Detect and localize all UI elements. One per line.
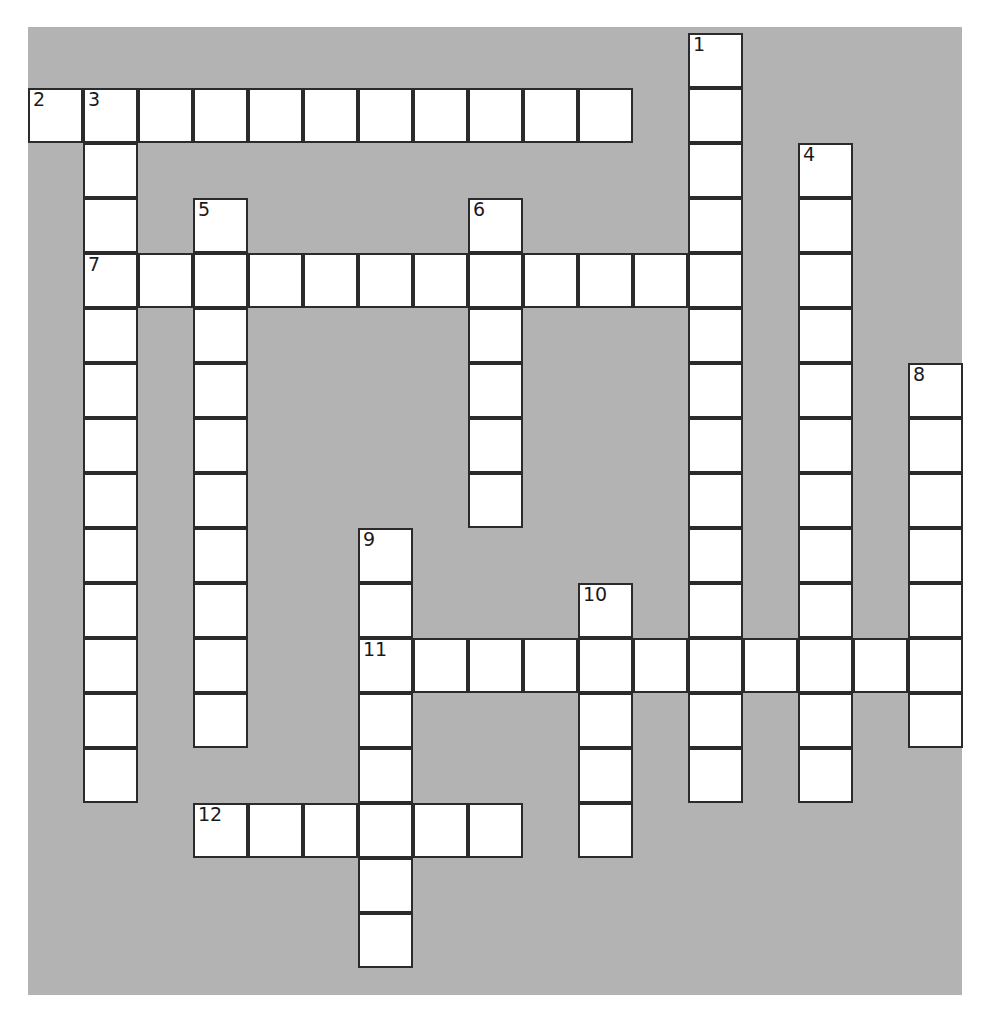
crossword-cell[interactable]: [743, 638, 798, 693]
crossword-cell[interactable]: [468, 418, 523, 473]
crossword-cell[interactable]: [83, 143, 138, 198]
crossword-cell[interactable]: [358, 803, 413, 858]
crossword-cell[interactable]: [523, 88, 578, 143]
crossword-cell[interactable]: [358, 88, 413, 143]
crossword-cell[interactable]: [908, 583, 963, 638]
crossword-cell[interactable]: [193, 253, 248, 308]
crossword-cell[interactable]: [798, 748, 853, 803]
crossword-cell[interactable]: [688, 198, 743, 253]
crossword-cell[interactable]: [798, 693, 853, 748]
crossword-cell[interactable]: [413, 803, 468, 858]
crossword-cell[interactable]: [468, 308, 523, 363]
crossword-cell[interactable]: [248, 88, 303, 143]
crossword-cell[interactable]: [193, 473, 248, 528]
crossword-cell[interactable]: [688, 693, 743, 748]
crossword-cell[interactable]: [83, 583, 138, 638]
crossword-cell[interactable]: [468, 473, 523, 528]
crossword-cell[interactable]: [468, 88, 523, 143]
crossword-grid[interactable]: 123456789101112: [0, 0, 985, 1022]
crossword-cell[interactable]: [83, 638, 138, 693]
crossword-cell[interactable]: [688, 363, 743, 418]
crossword-cell[interactable]: [798, 418, 853, 473]
crossword-cell[interactable]: [578, 803, 633, 858]
crossword-cell[interactable]: [83, 528, 138, 583]
crossword-cell-start-5[interactable]: 5: [193, 198, 248, 253]
crossword-cell[interactable]: [578, 638, 633, 693]
crossword-cell[interactable]: [798, 308, 853, 363]
crossword-cell[interactable]: [688, 528, 743, 583]
crossword-cell[interactable]: [908, 693, 963, 748]
crossword-cell[interactable]: [688, 473, 743, 528]
crossword-cell[interactable]: [688, 748, 743, 803]
crossword-cell[interactable]: [578, 253, 633, 308]
crossword-cell-start-2[interactable]: 2: [28, 88, 83, 143]
crossword-cell-start-4[interactable]: 4: [798, 143, 853, 198]
crossword-cell[interactable]: [83, 198, 138, 253]
crossword-cell[interactable]: [578, 748, 633, 803]
crossword-cell-start-8[interactable]: 8: [908, 363, 963, 418]
crossword-cell[interactable]: [413, 88, 468, 143]
crossword-cell-start-3[interactable]: 3: [83, 88, 138, 143]
crossword-cell[interactable]: [193, 583, 248, 638]
crossword-cell[interactable]: [413, 253, 468, 308]
crossword-cell[interactable]: [358, 253, 413, 308]
crossword-cell[interactable]: [798, 583, 853, 638]
crossword-cell-start-10[interactable]: 10: [578, 583, 633, 638]
crossword-cell[interactable]: [358, 858, 413, 913]
crossword-cell[interactable]: [688, 143, 743, 198]
crossword-cell[interactable]: [303, 253, 358, 308]
crossword-cell-start-11[interactable]: 11: [358, 638, 413, 693]
crossword-cell[interactable]: [688, 583, 743, 638]
crossword-cell[interactable]: [358, 913, 413, 968]
crossword-cell-start-12[interactable]: 12: [193, 803, 248, 858]
crossword-cell[interactable]: [303, 88, 358, 143]
crossword-cell[interactable]: [193, 418, 248, 473]
crossword-cell[interactable]: [908, 638, 963, 693]
crossword-cell[interactable]: [688, 88, 743, 143]
crossword-cell[interactable]: [358, 748, 413, 803]
crossword-cell[interactable]: [853, 638, 908, 693]
crossword-cell[interactable]: [688, 638, 743, 693]
crossword-cell[interactable]: [578, 88, 633, 143]
crossword-cell[interactable]: [578, 693, 633, 748]
crossword-cell[interactable]: [358, 693, 413, 748]
crossword-cell[interactable]: [908, 528, 963, 583]
crossword-cell[interactable]: [908, 473, 963, 528]
crossword-cell[interactable]: [798, 528, 853, 583]
crossword-cell[interactable]: [193, 693, 248, 748]
crossword-cell[interactable]: [468, 363, 523, 418]
crossword-cell[interactable]: [248, 253, 303, 308]
crossword-cell[interactable]: [523, 638, 578, 693]
crossword-cell-start-6[interactable]: 6: [468, 198, 523, 253]
crossword-cell[interactable]: [798, 363, 853, 418]
crossword-cell[interactable]: [83, 693, 138, 748]
crossword-cell[interactable]: [193, 308, 248, 363]
crossword-cell-start-1[interactable]: 1: [688, 33, 743, 88]
crossword-cell-start-9[interactable]: 9: [358, 528, 413, 583]
crossword-cell[interactable]: [798, 198, 853, 253]
crossword-cell[interactable]: [633, 253, 688, 308]
crossword-cell[interactable]: [138, 88, 193, 143]
crossword-cell[interactable]: [908, 418, 963, 473]
crossword-cell-start-7[interactable]: 7: [83, 253, 138, 308]
crossword-cell[interactable]: [248, 803, 303, 858]
crossword-cell[interactable]: [633, 638, 688, 693]
crossword-cell[interactable]: [83, 748, 138, 803]
crossword-cell[interactable]: [468, 253, 523, 308]
crossword-cell[interactable]: [798, 473, 853, 528]
crossword-cell[interactable]: [468, 638, 523, 693]
crossword-cell[interactable]: [413, 638, 468, 693]
crossword-cell[interactable]: [193, 638, 248, 693]
crossword-cell[interactable]: [688, 308, 743, 363]
crossword-cell[interactable]: [193, 363, 248, 418]
crossword-cell[interactable]: [83, 308, 138, 363]
crossword-cell[interactable]: [193, 88, 248, 143]
crossword-cell[interactable]: [798, 253, 853, 308]
crossword-cell[interactable]: [358, 583, 413, 638]
crossword-cell[interactable]: [303, 803, 358, 858]
crossword-cell[interactable]: [83, 473, 138, 528]
crossword-cell[interactable]: [83, 418, 138, 473]
crossword-cell[interactable]: [688, 418, 743, 473]
crossword-cell[interactable]: [688, 253, 743, 308]
crossword-cell[interactable]: [468, 803, 523, 858]
